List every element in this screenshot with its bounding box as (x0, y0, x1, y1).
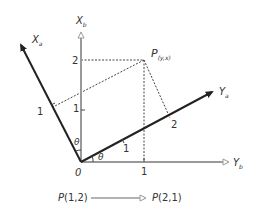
xb-axis-label: Xb (75, 15, 87, 28)
ya-axis-label: Ya (219, 86, 229, 99)
xa-axis-label: Xa (31, 34, 43, 47)
yb-axis-label: Yb (233, 157, 243, 170)
point-label: P(y,x) (151, 47, 171, 62)
tick-label-xb-2: 2 (72, 55, 78, 66)
tick-label-ya-2: 2 (171, 119, 177, 130)
projection-to-xa (53, 60, 144, 107)
tick-label-ya-1: 1 (123, 143, 129, 154)
tick-label-xb-1: 1 (73, 103, 79, 114)
angle-label-b: θ (98, 152, 104, 162)
tick-label-yb-1: 1 (141, 166, 147, 177)
tick-label-xa-1: 1 (37, 106, 43, 117)
projection-to-ya (144, 60, 170, 118)
mapping-from: P(1,2) (58, 192, 88, 203)
angle-label-a: θ (74, 137, 80, 147)
origin-label: 0 (75, 167, 81, 178)
mapping-to: P(2,1) (152, 192, 182, 203)
rotation-diagram: Xb Xa Ya Yb P(y,x) 2 1 1 1 2 1 θ θ 0 P(1… (0, 0, 259, 213)
